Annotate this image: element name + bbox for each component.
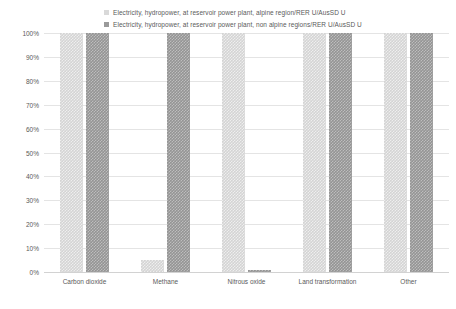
legend-swatch-icon-alpine-region [104, 10, 109, 15]
bar[interactable] [384, 33, 407, 272]
bar-group [125, 33, 206, 272]
legend-swatch-icon-non-alpine-regions [104, 22, 109, 27]
gridline-0%: 0% [44, 272, 449, 273]
bar[interactable] [60, 33, 83, 272]
x-axis-label: Other [368, 278, 449, 285]
chart-legend: Electricity, hydropower, at reservoir po… [104, 7, 448, 31]
bar-pair [141, 33, 190, 272]
bar-pair [60, 33, 109, 272]
plot-area: 100%90%80%70%60%50%40%30%20%10%0% [44, 33, 449, 272]
bar[interactable] [410, 33, 433, 272]
y-axis-tick-label: 20% [26, 221, 39, 228]
y-axis-tick-label: 60% [26, 125, 39, 132]
x-axis-label: Carbon dioxide [44, 278, 125, 285]
bar-pair [222, 33, 271, 272]
y-axis-tick-label: 50% [26, 149, 39, 156]
bars-layer [44, 33, 449, 272]
bar[interactable] [303, 33, 326, 272]
bar-group [287, 33, 368, 272]
legend-label-alpine-region: Electricity, hydropower, at reservoir po… [113, 9, 346, 17]
bar[interactable] [248, 270, 271, 272]
bar-group [44, 33, 125, 272]
x-axis-label: Nitrous oxide [206, 278, 287, 285]
y-axis-tick-label: 90% [26, 53, 39, 60]
bar-group [206, 33, 287, 272]
y-axis-tick-label: 70% [26, 101, 39, 108]
x-axis-labels: Carbon dioxideMethaneNitrous oxideLand t… [44, 278, 449, 285]
legend-label-non-alpine-regions: Electricity, hydropower, at reservoir po… [113, 21, 362, 29]
y-axis-tick-label: 0% [30, 269, 39, 276]
bar[interactable] [141, 260, 164, 272]
bar[interactable] [222, 33, 245, 272]
bar[interactable] [86, 33, 109, 272]
y-axis-tick-label: 40% [26, 173, 39, 180]
bar[interactable] [167, 33, 190, 272]
bar-pair [384, 33, 433, 272]
bar-pair [303, 33, 352, 272]
x-axis-label: Methane [125, 278, 206, 285]
y-axis-tick-label: 80% [26, 77, 39, 84]
y-axis-tick-label: 100% [22, 30, 39, 37]
bar-group [368, 33, 449, 272]
legend-item-alpine-region[interactable]: Electricity, hydropower, at reservoir po… [104, 7, 448, 18]
legend-item-non-alpine-regions[interactable]: Electricity, hydropower, at reservoir po… [104, 19, 448, 30]
y-axis-tick-label: 10% [26, 245, 39, 252]
x-axis-label: Land transformation [287, 278, 368, 285]
bar-chart: Electricity, hydropower, at reservoir po… [0, 0, 456, 309]
y-axis-tick-label: 30% [26, 197, 39, 204]
bar[interactable] [329, 33, 352, 272]
